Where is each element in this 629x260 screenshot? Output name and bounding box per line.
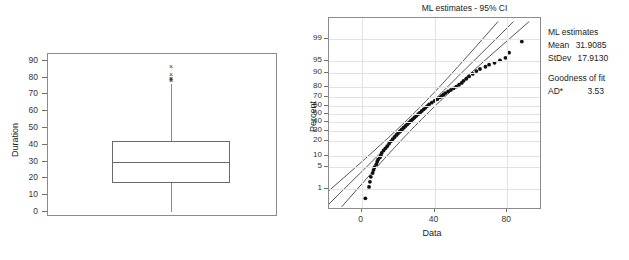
probability-plot-y-tick-label: 90 xyxy=(300,68,322,76)
probability-plot-frame xyxy=(328,17,541,209)
boxplot-plot-frame: ×××××× xyxy=(47,53,277,216)
probability-plot-panel: Probability Plot of Duration ML estimate… xyxy=(300,0,629,260)
figure-root: Duration 0102030405060708090 ×××××× Prob… xyxy=(0,0,629,260)
boxplot-y-tick-label: 80 xyxy=(14,72,38,82)
probability-plot-x-tick-label: 0 xyxy=(358,214,363,224)
probability-plot-y-tick-label: 50 xyxy=(300,109,322,117)
legend-mean-key: Mean xyxy=(548,39,569,52)
legend-ad-row: AD* 3.53 xyxy=(548,85,628,98)
boxplot-y-tick-label: 20 xyxy=(14,172,38,182)
probability-plot-y-tick-label: 20 xyxy=(300,136,322,144)
probability-plot-data-point xyxy=(363,196,367,200)
probability-plot-data-point xyxy=(487,63,491,67)
legend-mean-value: 31.9085 xyxy=(576,39,607,52)
boxplot-outlier-marker: × xyxy=(169,77,173,84)
probability-plot-y-tick-label: 70 xyxy=(300,92,322,100)
legend-ad-value: 3.53 xyxy=(588,85,605,98)
probability-plot-legend: ML estimates Mean 31.9085 StDev 17.9130 … xyxy=(548,26,628,98)
legend-mean-row: Mean 31.9085 xyxy=(548,39,628,52)
boxplot-y-tick-label: 0 xyxy=(14,206,38,216)
probability-plot-data-point xyxy=(478,67,482,71)
boxplot-outlier-marker: × xyxy=(169,62,173,69)
legend-stdev-value: 17.9130 xyxy=(578,52,609,65)
probability-plot-y-tick-label: 30 xyxy=(300,126,322,134)
legend-heading-fit: Goodness of fit xyxy=(548,72,628,85)
boxplot-y-tick-label: 40 xyxy=(14,139,38,149)
boxplot-y-tick-label: 50 xyxy=(14,122,38,132)
boxplot-lower-whisker xyxy=(171,183,172,212)
boxplot-y-tick-label: 70 xyxy=(14,88,38,98)
probability-plot-y-tick-label: 10 xyxy=(300,151,322,159)
probability-plot-gridline-vertical xyxy=(362,18,363,208)
boxplot-y-tick-label: 30 xyxy=(14,156,38,166)
probability-plot-y-tick-label: 99 xyxy=(300,34,322,42)
probability-plot-gridline-vertical xyxy=(435,18,436,208)
probability-plot-x-axis-label: Data xyxy=(423,228,442,238)
probability-plot-x-tick-label: 80 xyxy=(502,214,511,224)
probability-plot-y-tick-label: 1 xyxy=(300,184,322,192)
boxplot-y-tick-label: 90 xyxy=(14,55,38,65)
legend-stdev-row: StDev 17.9130 xyxy=(548,52,628,65)
boxplot-y-tick-label: 60 xyxy=(14,105,38,115)
boxplot-y-tick-label: 10 xyxy=(14,189,38,199)
probability-plot-gridline-vertical xyxy=(507,18,508,208)
legend-heading-estimates: ML estimates xyxy=(548,26,628,39)
legend-spacer xyxy=(548,65,628,72)
legend-ad-key: AD* xyxy=(548,85,563,98)
boxplot-median-line xyxy=(112,162,230,163)
boxplot-upper-whisker xyxy=(171,84,172,140)
probability-plot-data-point xyxy=(467,75,471,79)
probability-plot-y-tick-label: 95 xyxy=(300,56,322,64)
probability-plot-data-point xyxy=(368,180,372,184)
probability-plot-data-point xyxy=(484,65,488,69)
probability-plot-data-point xyxy=(369,175,373,179)
probability-plot-y-tick-label: 60 xyxy=(300,101,322,109)
probability-plot-x-tick-label: 40 xyxy=(429,214,438,224)
legend-stdev-key: StDev xyxy=(548,52,571,65)
probability-plot-y-tick-label: 80 xyxy=(300,82,322,90)
probability-plot-y-tick-label: 5 xyxy=(300,162,322,170)
boxplot-panel: Duration 0102030405060708090 ×××××× xyxy=(0,0,300,260)
probability-plot-y-tick-label: 40 xyxy=(300,117,322,125)
probability-plot-subtitle: ML estimates - 95% CI xyxy=(300,3,629,13)
